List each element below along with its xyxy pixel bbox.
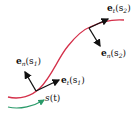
label-et-s2: et(s2) — [107, 4, 131, 14]
label-en-s2: en(s2) — [101, 49, 126, 59]
label-et-s1: et(s1) — [61, 76, 85, 86]
parameter-arrow — [8, 100, 44, 108]
tangent-vector-s2 — [89, 19, 108, 28]
normal-vector-s1 — [25, 72, 36, 91]
label-en-s1: en(s1) — [16, 57, 41, 67]
normal-vector-s2 — [89, 28, 100, 46]
tangent-vector-s1 — [36, 80, 59, 91]
label-s-of-t: s(t) — [45, 94, 60, 103]
